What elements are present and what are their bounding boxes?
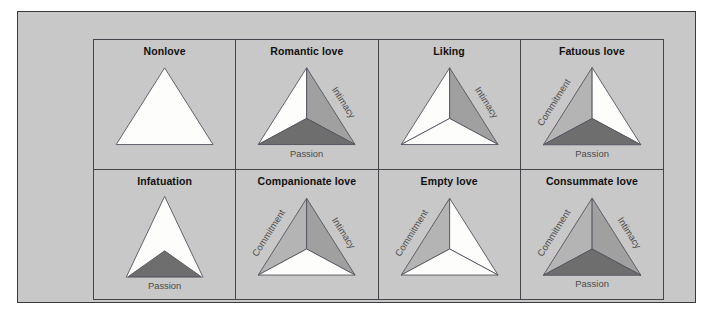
cell-romantic-love: Romantic love PassionIntimacy	[236, 40, 378, 170]
cell-title: Infatuation	[94, 175, 235, 187]
cell-consummate-love: Consummate love PassionIntimacyCommitmen…	[521, 170, 663, 300]
love-triangle: PassionCommitment	[521, 58, 663, 167]
passion-axis-label: Passion	[575, 278, 609, 289]
cell-title: Nonlove	[94, 45, 235, 57]
triangle-diagram: PassionIntimacy	[236, 58, 377, 167]
cell-companionate-love: Companionate love IntimacyCommitment	[236, 170, 378, 300]
cell-title: Liking	[379, 45, 520, 57]
cell-title: Fatuous love	[521, 45, 663, 57]
love-triangle	[94, 58, 235, 167]
love-triangle: Intimacy	[379, 58, 520, 167]
love-triangle: Passion	[94, 188, 235, 298]
passion-axis-label: Passion	[148, 281, 181, 291]
cell-infatuation: Infatuation Passion	[94, 170, 236, 300]
triangular-theory-of-love-figure: Nonlove Romantic love PassionIntimacy Li…	[0, 0, 719, 321]
triangle-diagram: PassionCommitment	[521, 58, 663, 167]
triangle-diagram	[94, 58, 235, 167]
triangle-diagram: Passion	[94, 188, 235, 298]
passion-axis-label: Passion	[575, 148, 609, 159]
cell-nonlove: Nonlove	[94, 40, 236, 170]
triangle-diagram: Intimacy	[379, 58, 520, 167]
love-triangle: IntimacyCommitment	[236, 188, 377, 298]
cell-title: Empty love	[379, 175, 520, 187]
cell-liking: Liking Intimacy	[379, 40, 521, 170]
cell-title: Consummate love	[521, 175, 663, 187]
cell-empty-love: Empty love Commitment	[379, 170, 521, 300]
triangle-diagram: Commitment	[379, 188, 520, 298]
cell-title: Companionate love	[236, 175, 377, 187]
triangle-diagram: PassionIntimacyCommitment	[521, 188, 663, 298]
love-triangle: PassionIntimacyCommitment	[521, 188, 663, 298]
cell-fatuous-love: Fatuous love PassionCommitment	[521, 40, 663, 170]
cell-title: Romantic love	[236, 45, 377, 57]
passion-axis-label: Passion	[290, 149, 323, 159]
love-types-grid: Nonlove Romantic love PassionIntimacy Li…	[93, 39, 664, 300]
triangle-diagram: IntimacyCommitment	[236, 188, 377, 298]
figure-panel: Nonlove Romantic love PassionIntimacy Li…	[17, 11, 696, 303]
love-triangle: Commitment	[379, 188, 520, 298]
love-triangle: PassionIntimacy	[236, 58, 377, 167]
triangle-outline	[116, 68, 213, 145]
